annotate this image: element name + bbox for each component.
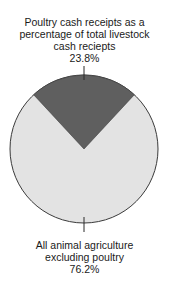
poultry-label-line-2: percentage of total livestock xyxy=(0,28,169,40)
poultry-label-line-1: Poultry cash receipts as a xyxy=(0,16,169,28)
other-slice-label: All animal agriculture excluding poultry… xyxy=(0,239,169,275)
other-value: 76.2% xyxy=(0,263,169,275)
poultry-value: 23.8% xyxy=(0,52,169,64)
poultry-slice-label: Poultry cash receipts as a percentage of… xyxy=(0,16,169,64)
other-label-line-1: All animal agriculture xyxy=(0,239,169,251)
poultry-label-line-3: cash reciepts xyxy=(0,40,169,52)
other-label-line-2: excluding poultry xyxy=(0,251,169,263)
